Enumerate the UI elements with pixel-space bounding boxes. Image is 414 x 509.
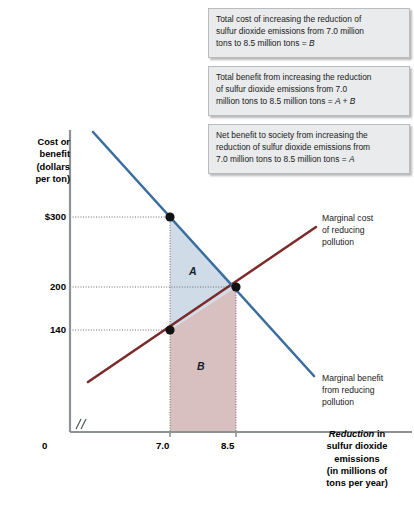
data-point-7-140 [165, 325, 174, 334]
y-axis-title-line1: Cost or [2, 136, 70, 148]
y-axis-title-line3: (dollars [2, 161, 70, 173]
region-a-label: A [189, 265, 197, 277]
callout-total-cost-line1: Total cost of increasing the reduction o… [216, 14, 402, 26]
x-tick-label-origin: 0 [42, 440, 47, 451]
y-axis-title-line4: per ton) [2, 173, 70, 185]
callout-total-benefit-line3: million tons to 8.5 million tons = A + B [216, 96, 402, 108]
y-axis-title: Cost or benefit (dollars per ton) [2, 136, 70, 185]
callout-net-benefit-line3: 7.0 million tons to 8.5 million tons = A [216, 154, 402, 166]
axis-break-marks [76, 419, 86, 429]
callout-net-benefit-line3-text: 7.0 million tons to 8.5 million tons = [216, 154, 349, 164]
marginal-benefit-label-line3: pollution [322, 397, 414, 409]
y-tick-label-300: $300 [14, 211, 66, 222]
callout-total-benefit-symbol: A + B [335, 96, 355, 106]
region-b-label: B [197, 360, 205, 372]
callout-net-benefit: Net benefit to society from increasing t… [208, 124, 410, 174]
x-tick-label-7: 7.0 [156, 440, 169, 451]
x-axis-title-emphasis: Reduction [329, 429, 374, 439]
callout-net-benefit-line2: reduction of sulfur dioxide emissions fr… [216, 142, 402, 154]
data-point-85-200 [231, 282, 240, 291]
data-point-7-300 [165, 212, 174, 221]
x-axis-title: Reduction in sulfur dioxide emissions (i… [306, 428, 408, 489]
callout-total-benefit-line3-text: million tons to 8.5 million tons = [216, 96, 335, 106]
x-axis-title-line5: tons per year) [306, 477, 408, 489]
y-tick-label-140: 140 [14, 324, 66, 335]
marginal-cost-curve-label: Marginal cost of reducing pollution [322, 213, 414, 249]
callout-total-cost-symbol: B [309, 38, 315, 48]
x-axis-title-line1: Reduction in [306, 428, 408, 440]
callout-net-benefit-line1: Net benefit to society from increasing t… [216, 130, 402, 142]
callout-total-benefit: Total benefit from increasing the reduct… [208, 66, 410, 116]
x-tick-label-85: 8.5 [221, 440, 234, 451]
x-axis-title-line4: (in millions of [306, 465, 408, 477]
marginal-benefit-label-line2: from reducing [322, 385, 414, 397]
callout-total-cost-line2: sulfur dioxide emissions from 7.0 millio… [216, 26, 402, 38]
callout-net-benefit-symbol: A [349, 154, 355, 164]
marginal-cost-label-line2: of reducing [322, 225, 414, 237]
x-axis-title-line2: sulfur dioxide [306, 440, 408, 452]
economics-chart-figure: Total cost of increasing the reduction o… [0, 0, 414, 509]
callout-total-cost-line3-text: tons to 8.5 million tons = [216, 38, 309, 48]
y-axis-title-line2: benefit [2, 148, 70, 160]
x-axis-title-line3: emissions [306, 453, 408, 465]
marginal-cost-label-line3: pollution [322, 237, 414, 249]
callout-total-cost-line3: tons to 8.5 million tons = B [216, 38, 402, 50]
marginal-cost-label-line1: Marginal cost [322, 213, 414, 225]
y-tick-label-200: 200 [14, 281, 66, 292]
marginal-benefit-label-line1: Marginal benefit [322, 373, 414, 385]
callout-total-benefit-line2: of sulfur dioxide emissions from 7.0 [216, 84, 402, 96]
marginal-benefit-curve-label: Marginal benefit from reducing pollution [322, 373, 414, 409]
x-axis-title-line1-rest: in [374, 429, 385, 439]
callout-total-cost: Total cost of increasing the reduction o… [208, 8, 410, 58]
callout-total-benefit-line1: Total benefit from increasing the reduct… [216, 72, 402, 84]
